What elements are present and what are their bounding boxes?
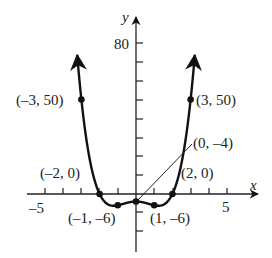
point-2-0 <box>169 191 176 198</box>
label-point-0-m4: (0, –4) <box>193 135 233 152</box>
label-point-m3-50: (–3, 50) <box>16 92 64 109</box>
point-3-50 <box>187 96 194 103</box>
y-axis-label: y <box>120 9 129 25</box>
function-graph: y x 80 –5 5 (–3, 50) (3, 50) (–2, 0) (2,… <box>0 0 272 258</box>
label-point-2-0: (2, 0) <box>181 165 214 182</box>
label-point-1-m6: (1, –6) <box>150 210 190 227</box>
tick-label-neg5: –5 <box>28 200 44 216</box>
point-0-m4 <box>133 198 140 205</box>
point-1-m6 <box>151 202 158 209</box>
label-point-m1-m6: (–1, –6) <box>68 210 116 227</box>
tick-label-5: 5 <box>222 199 230 215</box>
point-m3-50 <box>78 96 85 103</box>
label-point-3-50: (3, 50) <box>196 92 236 109</box>
label-point-m2-0: (–2, 0) <box>40 165 80 182</box>
x-axis-label: x <box>249 177 257 193</box>
point-m1-m6 <box>115 202 122 209</box>
point-m2-0 <box>96 191 103 198</box>
tick-label-80: 80 <box>114 36 129 52</box>
